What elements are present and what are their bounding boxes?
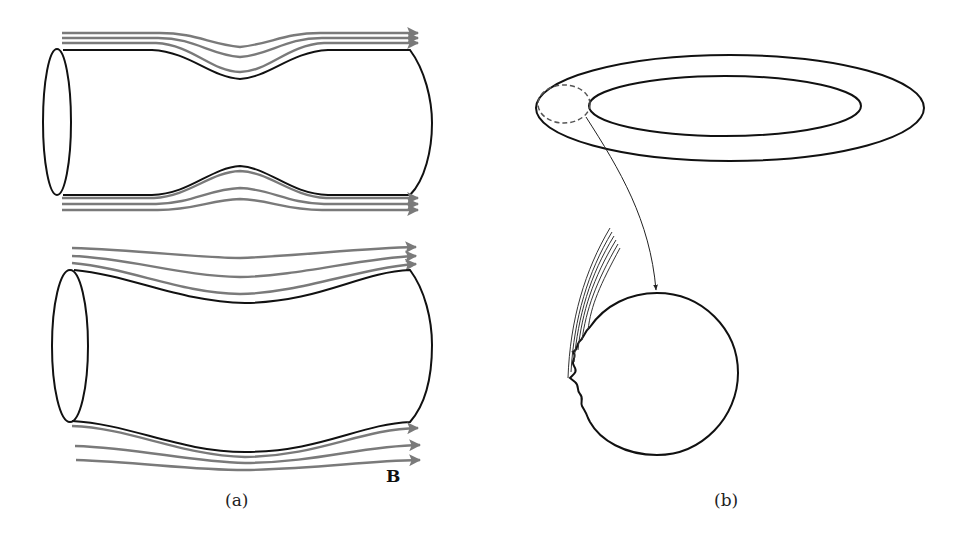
panel-a-label: (a) [225, 490, 248, 510]
tube-end-ellipse [52, 270, 88, 422]
sausage-mode-tube [43, 33, 432, 210]
cross-section-outline [570, 293, 738, 455]
torus-inner-ellipse [589, 76, 861, 136]
magnetic-field-label: B [386, 466, 400, 486]
field-lines-top [72, 247, 416, 294]
torus [536, 55, 924, 290]
torus-cross-section [568, 228, 738, 455]
diagram-canvas [0, 0, 965, 543]
field-lines-bottom [72, 426, 420, 470]
tube-outline [72, 270, 432, 452]
kink-mode-tube [52, 247, 432, 470]
panel-b-label: (b) [714, 490, 738, 510]
tube-end-ellipse [43, 49, 71, 195]
zoom-arrow [586, 117, 656, 290]
torus-outer-ellipse [536, 55, 924, 161]
field-lines-bottom [62, 171, 418, 210]
field-lines-top [62, 33, 418, 72]
filaments [568, 228, 620, 378]
